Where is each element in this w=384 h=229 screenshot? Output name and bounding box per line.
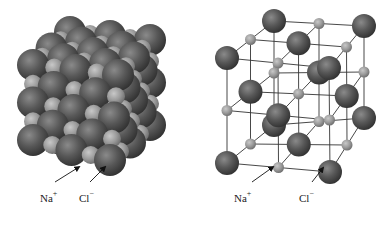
na-ion-sphere [342,140,353,151]
na-ion-sphere [293,88,304,99]
na-ion-sphere [269,68,280,79]
cl-ion-sphere [215,46,239,70]
cl-ion-sphere [287,31,311,55]
label-na-left: Na+ [40,190,57,204]
space-filling-model [17,16,166,176]
na-ion-sphere [324,115,335,126]
cl-ion-sphere [318,160,342,184]
label-cl-right: Cl− [299,190,314,204]
cl-ion-sphere [94,144,126,176]
cl-ion-sphere [17,124,49,156]
cl-ion-sphere [317,56,341,80]
na-ion-sphere [314,116,325,127]
na-ion-sphere [273,162,284,173]
cl-ion-sphere [335,84,359,108]
na-ion-sphere [245,34,256,45]
na-ion-sphere [245,139,256,150]
na-ion-sphere [359,67,370,78]
pointer-arrow-icon [252,167,273,182]
nacl-crystal-figure [0,0,384,229]
na-ion-sphere [341,42,352,53]
pointer-arrow-icon [55,167,79,182]
cl-ion-sphere [352,14,376,38]
cl-ion-sphere [262,9,286,33]
cl-ion-sphere [239,80,263,104]
na-ion-sphere [273,58,284,69]
cl-ion-sphere [352,106,376,130]
na-ion-sphere [314,18,325,29]
label-na-right: Na+ [234,190,251,204]
cl-ion-sphere [287,133,311,157]
cl-ion-sphere [215,151,239,175]
ball-and-stick-model [215,9,376,184]
na-ion-sphere [222,105,233,116]
cl-ion-sphere [56,134,88,166]
label-cl-left: Cl− [79,190,94,204]
cl-ion-sphere [266,103,290,127]
